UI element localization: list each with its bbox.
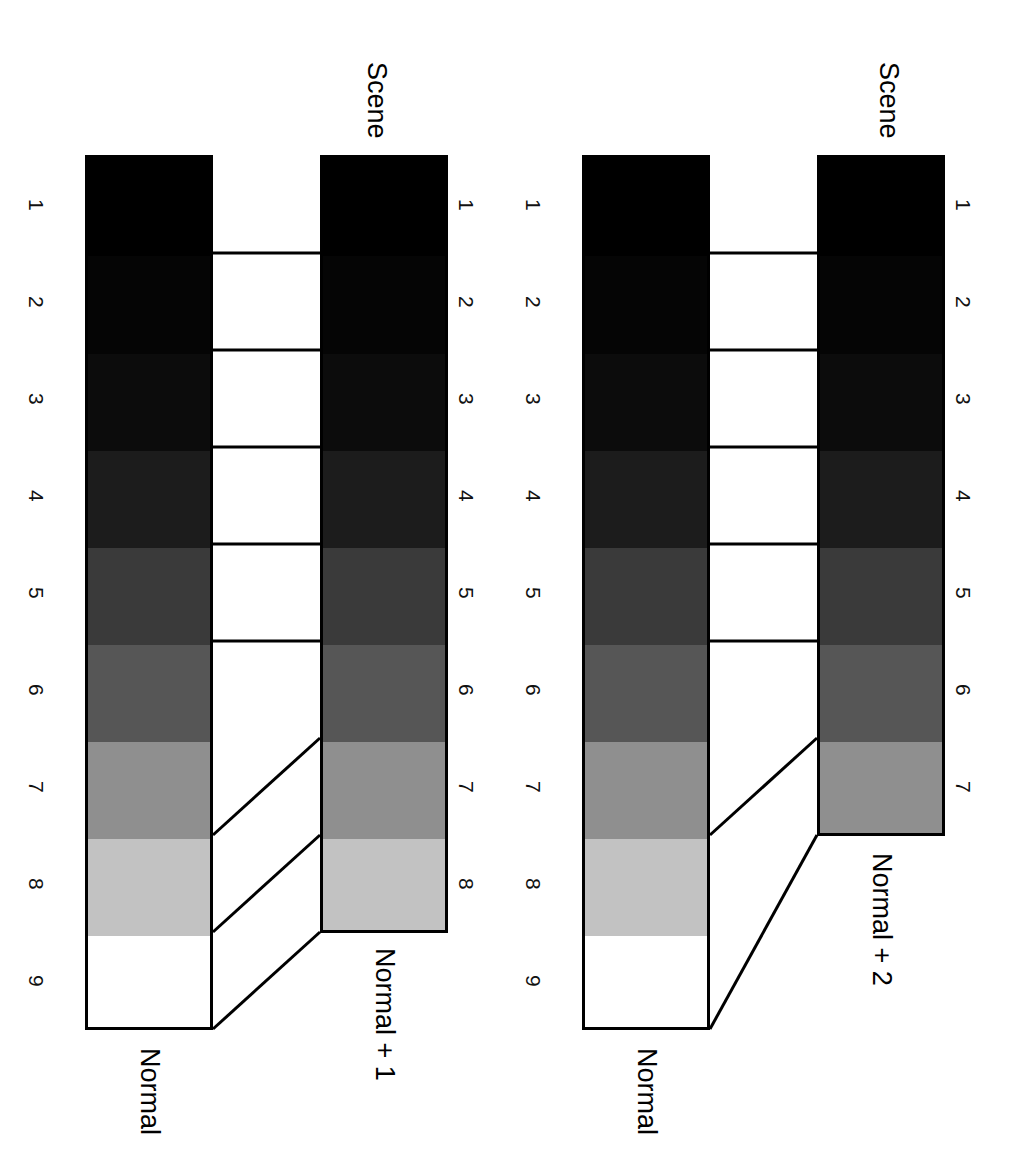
band2-zone-6 <box>585 645 707 742</box>
band-zone-9 <box>88 936 210 1030</box>
band-zone-4 <box>88 451 210 548</box>
band-zone-5 <box>88 548 210 645</box>
band-result-zone-3 <box>323 354 445 451</box>
wedge-normal-left <box>85 155 213 1030</box>
band-zone-1 <box>88 158 210 256</box>
band-result-zone-6 <box>323 645 445 742</box>
zone-label2-left-7: 7 <box>521 781 545 793</box>
zone-label-left-6: 6 <box>24 684 48 696</box>
zone-label2-result-6: 6 <box>951 684 975 696</box>
zone-label-left-1: 1 <box>24 199 48 211</box>
band2-result-zone-4 <box>820 451 942 548</box>
band2-result-zone-3 <box>820 354 942 451</box>
band-zone-8 <box>88 839 210 936</box>
zone-label2-result-4: 4 <box>951 490 975 502</box>
zone-label2-result-7: 7 <box>951 781 975 793</box>
zone-label2-left-3: 3 <box>521 393 545 405</box>
zone-label-result-8: 8 <box>454 878 478 890</box>
band-zone-7 <box>88 742 210 839</box>
wedge-normal-left-caption: Normal <box>134 1048 165 1135</box>
zone-label2-result-2: 2 <box>951 296 975 308</box>
zone-label-left-4: 4 <box>24 490 48 502</box>
zone-label2-result-3: 3 <box>951 393 975 405</box>
wedge-normal-right <box>582 155 710 1030</box>
band2-zone-9 <box>585 936 707 1030</box>
zone-label-left-8: 8 <box>24 878 48 890</box>
zone-label-left-9: 9 <box>24 975 48 987</box>
band-result-zone-7 <box>323 742 445 839</box>
panel-normal-plus-1: Scene 1 2 3 4 5 6 7 8 9 Normal <box>0 0 512 1171</box>
band-result-zone-2 <box>323 256 445 354</box>
zone-label2-left-5: 5 <box>521 587 545 599</box>
wedge-normal-plus-2-caption: Normal + 2 <box>866 853 897 986</box>
zone-label-result-4: 4 <box>454 490 478 502</box>
zone-label-result-7: 7 <box>454 781 478 793</box>
wedge-normal-plus-1-caption: Normal + 1 <box>369 948 400 1081</box>
band2-zone-3 <box>585 354 707 451</box>
band2-result-zone-5 <box>820 548 942 645</box>
zone-label-result-5: 5 <box>454 587 478 599</box>
band2-zone-5 <box>585 548 707 645</box>
zone-label-result-3: 3 <box>454 393 478 405</box>
zone-label-result-6: 6 <box>454 684 478 696</box>
band-result-zone-4 <box>323 451 445 548</box>
zone-label-left-2: 2 <box>24 296 48 308</box>
figure-root: Scene 1 2 3 4 5 6 7 8 9 Normal <box>0 0 1025 1171</box>
band2-zone-1 <box>585 158 707 256</box>
wedge-normal-right-caption: Normal <box>631 1048 662 1135</box>
band2-result-zone-2 <box>820 256 942 354</box>
scene-label: Scene <box>361 62 392 139</box>
wedge-normal-plus-2 <box>817 155 945 836</box>
zone-label2-result-5: 5 <box>951 587 975 599</box>
band2-result-zone-1 <box>820 158 942 256</box>
band2-zone-7 <box>585 742 707 839</box>
zone-label-left-3: 3 <box>24 393 48 405</box>
band-result-zone-1 <box>323 158 445 256</box>
zone-label-result-1: 1 <box>454 199 478 211</box>
band-zone-2 <box>88 256 210 354</box>
band-zone-6 <box>88 645 210 742</box>
band-result-zone-8 <box>323 839 445 933</box>
zone-label2-result-1: 1 <box>951 199 975 211</box>
band-zone-3 <box>88 354 210 451</box>
band2-zone-2 <box>585 256 707 354</box>
zone-label2-left-1: 1 <box>521 199 545 211</box>
zone-label-left-7: 7 <box>24 781 48 793</box>
scene-label-2: Scene <box>873 62 904 139</box>
band-result-zone-5 <box>323 548 445 645</box>
panel-normal-plus-2: Scene 1 2 3 4 5 6 7 8 9 Normal <box>512 0 1024 1171</box>
zone-label2-left-4: 4 <box>521 490 545 502</box>
band2-zone-4 <box>585 451 707 548</box>
zone-label-result-2: 2 <box>454 296 478 308</box>
band2-result-zone-7 <box>820 742 942 836</box>
zone-label2-left-9: 9 <box>521 975 545 987</box>
wedge-normal-plus-1 <box>320 155 448 933</box>
band2-result-zone-6 <box>820 645 942 742</box>
zone-label-left-5: 5 <box>24 587 48 599</box>
zone-label2-left-6: 6 <box>521 684 545 696</box>
zone-label2-left-8: 8 <box>521 878 545 890</box>
zone-label2-left-2: 2 <box>521 296 545 308</box>
band2-zone-8 <box>585 839 707 936</box>
